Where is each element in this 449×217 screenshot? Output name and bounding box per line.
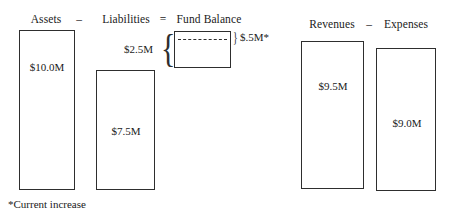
header-expenses: Expenses bbox=[384, 19, 428, 31]
bar-label-assets: $10.0M bbox=[30, 61, 65, 73]
callout-fund-balance-increase: $.5M* bbox=[240, 32, 269, 43]
bar-label-liabilities: $7.5M bbox=[111, 125, 140, 137]
fund-balance-increase-divider bbox=[178, 39, 227, 40]
brace-fund-balance-increase: } bbox=[233, 31, 238, 45]
header-liabilities: Liabilities bbox=[102, 14, 150, 26]
header-fund-balance: Fund Balance bbox=[177, 14, 242, 26]
header-assets: Assets bbox=[31, 14, 62, 26]
bar-fund-balance bbox=[174, 31, 231, 68]
brace-fund-balance-total: { bbox=[161, 29, 175, 69]
header-revenues: Revenues bbox=[309, 19, 355, 31]
fund-balance-diagram: Assets – Liabilities = Fund Balance Reve… bbox=[0, 0, 449, 217]
operator-minus-left: – bbox=[76, 14, 82, 26]
bar-label-revenues: $9.5M bbox=[318, 80, 347, 92]
bar-assets bbox=[19, 30, 75, 190]
callout-fund-balance-total: $2.5M bbox=[124, 44, 153, 55]
operator-minus-right: – bbox=[366, 19, 372, 31]
footnote-current-increase: *Current increase bbox=[8, 198, 86, 210]
operator-equals: = bbox=[160, 14, 167, 26]
bar-label-expenses: $9.0M bbox=[392, 117, 421, 129]
bar-revenues bbox=[301, 41, 364, 189]
